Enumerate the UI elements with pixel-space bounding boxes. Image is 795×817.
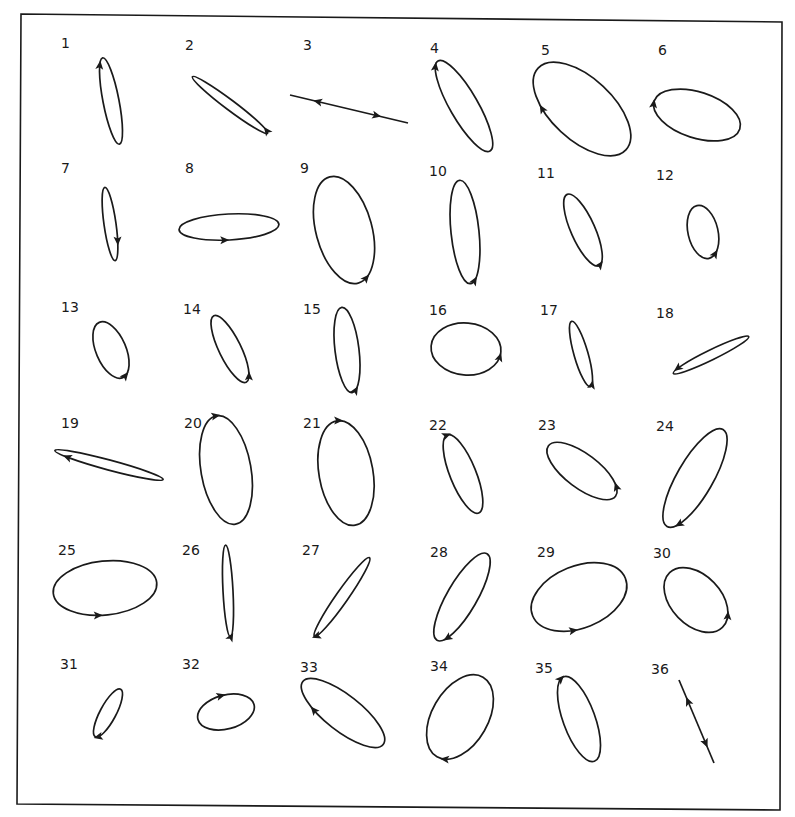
polarization-ellipse (194, 688, 259, 736)
polarization-ellipse (310, 416, 382, 530)
polarization-ellipse (85, 317, 136, 384)
panel-14: 14 (183, 301, 256, 387)
direction-arrow-icon (587, 380, 595, 390)
panel-30: 30 (652, 545, 741, 645)
direction-arrow-icon (441, 433, 451, 440)
panel-number-label: 31 (60, 656, 78, 672)
panel-7: 7 (61, 160, 122, 261)
panel-number-label: 26 (182, 542, 200, 558)
polarization-ellipse (303, 170, 386, 291)
panel-31: 31 (60, 656, 128, 741)
polarization-ellipse (330, 306, 364, 394)
polarization-ellipse (99, 187, 121, 262)
direction-arrow-icon (469, 277, 477, 287)
direction-arrow-icon (674, 363, 684, 372)
polarization-ellipse (549, 671, 610, 767)
panel-23: 23 (538, 417, 626, 510)
panel-number-label: 36 (651, 661, 669, 677)
panel-12: 12 (656, 167, 724, 262)
panel-19: 19 (54, 415, 165, 484)
panel-number-label: 30 (653, 545, 671, 561)
panel-29: 29 (521, 544, 637, 644)
panel-number-label: 2 (185, 37, 194, 53)
panel-25: 25 (50, 542, 159, 620)
panel-number-label: 13 (61, 299, 79, 315)
direction-arrow-icon (264, 127, 273, 137)
polarization-line (290, 95, 408, 123)
panel-33: 33 (292, 659, 395, 759)
direction-arrow-icon (675, 519, 685, 527)
panel-number-label: 27 (302, 542, 320, 558)
panel-9: 9 (300, 160, 385, 290)
figure-frame (17, 14, 782, 810)
panel-36: 36 (651, 661, 714, 763)
panel-2: 2 (185, 37, 273, 137)
panel-number-label: 29 (537, 544, 555, 560)
panel-number-label: 34 (430, 658, 448, 674)
polarization-ellipse (647, 79, 747, 151)
panel-number-label: 25 (58, 542, 76, 558)
panel-21: 21 (303, 415, 382, 530)
panel-5: 5 (517, 42, 647, 173)
panel-number-label: 14 (183, 301, 201, 317)
panel-27: 27 (302, 542, 374, 640)
panel-15: 15 (303, 301, 364, 396)
polarization-ellipse (651, 421, 738, 536)
panel-number-label: 1 (61, 35, 70, 51)
panel-number-label: 23 (538, 417, 556, 433)
polarization-ellipse (556, 189, 610, 270)
polarization-ellipse (95, 56, 127, 145)
panel-26: 26 (182, 542, 235, 643)
polarization-ellipse (189, 73, 270, 138)
panel-number-label: 5 (541, 42, 550, 58)
polarization-ellipse (538, 432, 626, 510)
panel-number-label: 15 (303, 301, 321, 317)
polarization-ellipse (178, 211, 279, 242)
polarization-ellipse (292, 667, 395, 758)
panel-35: 35 (535, 660, 609, 767)
polarization-ellipse (517, 45, 647, 172)
panel-34: 34 (413, 658, 507, 771)
panel-number-label: 33 (300, 659, 318, 675)
polarization-line (679, 680, 714, 763)
polarization-ellipse (682, 202, 723, 261)
polarization-ellipse (671, 332, 751, 378)
panel-20: 20 (184, 411, 260, 528)
panel-1: 1 (61, 35, 127, 146)
panel-number-label: 24 (656, 418, 674, 434)
panel-number-label: 4 (430, 40, 439, 56)
polarization-ellipse (50, 556, 159, 621)
panel-32: 32 (182, 656, 258, 736)
polarization-ellipse (54, 446, 165, 485)
panel-number-label: 28 (430, 544, 448, 560)
panel-number-label: 32 (182, 656, 200, 672)
panel-number-label: 20 (184, 415, 202, 431)
panel-number-label: 35 (535, 660, 553, 676)
direction-arrow-icon (120, 372, 129, 382)
polarization-ellipse (429, 320, 503, 378)
panel-8: 8 (178, 160, 279, 244)
panel-number-label: 9 (300, 160, 309, 176)
panel-13: 13 (61, 299, 137, 383)
panel-number-label: 6 (658, 42, 667, 58)
polarization-ellipse (521, 550, 637, 645)
panel-10: 10 (429, 163, 484, 286)
panel-number-label: 3 (303, 37, 312, 53)
panel-6: 6 (647, 42, 747, 151)
polarization-ellipse (424, 546, 500, 648)
panel-number-label: 21 (303, 415, 321, 431)
polarization-ellipse (221, 545, 236, 637)
panel-number-label: 8 (185, 160, 194, 176)
panel-number-label: 7 (61, 160, 70, 176)
polarization-ellipse (413, 663, 507, 771)
polarization-ellipse (192, 411, 260, 528)
panel-number-label: 22 (429, 417, 447, 433)
panel-number-label: 16 (429, 302, 447, 318)
direction-arrow-icon (555, 675, 564, 684)
ellipse-grid-figure: 1234567891011121314151617181920212223242… (0, 0, 795, 817)
panel-number-label: 19 (61, 415, 79, 431)
panel-24: 24 (651, 418, 738, 535)
panel-number-label: 10 (429, 163, 447, 179)
panel-18: 18 (656, 305, 751, 378)
panel-28: 28 (424, 544, 500, 648)
